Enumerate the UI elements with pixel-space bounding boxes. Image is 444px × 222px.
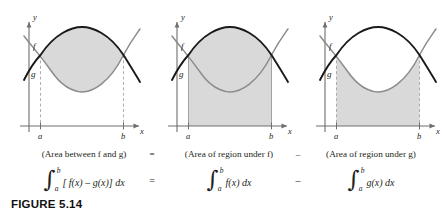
- panel-area-under-g: y x f g a b: [296, 0, 444, 148]
- y-axis-arrow: [323, 22, 328, 28]
- integral-equation-row: ∫ b a [ f(x) – g(x)] dx = ∫ b a f(x) dx …: [0, 165, 444, 195]
- y-axis-label: y: [180, 12, 185, 22]
- x-axis-label: x: [287, 126, 292, 136]
- word-term-area-between: (Area between f and g): [14, 144, 154, 164]
- curve-f-label: f: [181, 41, 185, 51]
- y-axis-label: y: [328, 12, 333, 22]
- integral-body-2: f(x) dx: [226, 177, 252, 188]
- integral-lower-limit-2: a: [218, 184, 222, 193]
- integral-term-difference: ∫ b a [ f(x) – g(x)] dx: [14, 165, 154, 195]
- word-term-area-under-g: (Area of region under g): [300, 144, 442, 164]
- y-axis-label: y: [32, 12, 37, 22]
- shaded-region-under-g: [337, 55, 420, 126]
- panel-3-graph: y x f g a b: [296, 0, 444, 148]
- tick-label-b: b: [121, 131, 125, 141]
- curve-g-label: g: [327, 69, 332, 79]
- x-axis-label: x: [435, 126, 440, 136]
- figure-5-14: y x f g a b: [0, 0, 444, 222]
- y-axis-arrow: [27, 22, 32, 28]
- panel-row: y x f g a b: [0, 0, 444, 148]
- tick-label-a: a: [186, 131, 190, 141]
- x-axis-label: x: [139, 126, 144, 136]
- integral-sign-1: ∫ b a: [43, 167, 55, 193]
- integral-upper-limit-2: b: [220, 166, 224, 175]
- integral-sign-2: ∫ b a: [207, 167, 219, 193]
- integral-term-g: ∫ b a g(x) dx: [300, 165, 442, 195]
- integral-term-f: ∫ b a f(x) dx: [158, 165, 300, 195]
- tick-label-a: a: [38, 131, 42, 141]
- panel-2-graph: y x f g a b: [148, 0, 296, 148]
- tick-label-b: b: [269, 131, 273, 141]
- curve-f-label: f: [329, 41, 333, 51]
- x-axis-arrow: [134, 124, 140, 129]
- panel-area-under-f: y x f g a b: [148, 0, 296, 148]
- tick-label-a: a: [334, 131, 338, 141]
- figure-caption: FIGURE 5.14: [11, 198, 82, 210]
- integral-body-3: g(x) dx: [366, 177, 394, 188]
- integral-sign-3: ∫ b a: [347, 167, 359, 193]
- curve-f-label: f: [33, 41, 37, 51]
- integral-upper-limit-1: b: [57, 166, 61, 175]
- x-axis-arrow: [282, 124, 288, 129]
- panel-area-between-f-and-g: y x f g a b: [0, 0, 148, 148]
- integral-lower-limit-3: a: [359, 184, 363, 193]
- integral-upper-limit-3: b: [361, 166, 365, 175]
- shaded-region-between-curves: [41, 27, 124, 92]
- y-axis-arrow: [175, 22, 180, 28]
- panel-1-graph: y x f g a b: [0, 0, 148, 148]
- word-term-area-under-f: (Area of region under f): [158, 144, 300, 164]
- curve-g-label: g: [31, 69, 36, 79]
- shaded-region-under-f: [189, 27, 272, 126]
- curve-g-label: g: [179, 69, 184, 79]
- integral-lower-limit-1: a: [55, 184, 59, 193]
- x-axis-arrow: [430, 124, 436, 129]
- integral-body-1: [ f(x) – g(x)] dx: [62, 177, 124, 188]
- word-equation-row: (Area between f and g) = (Area of region…: [0, 144, 444, 164]
- tick-label-b: b: [417, 131, 421, 141]
